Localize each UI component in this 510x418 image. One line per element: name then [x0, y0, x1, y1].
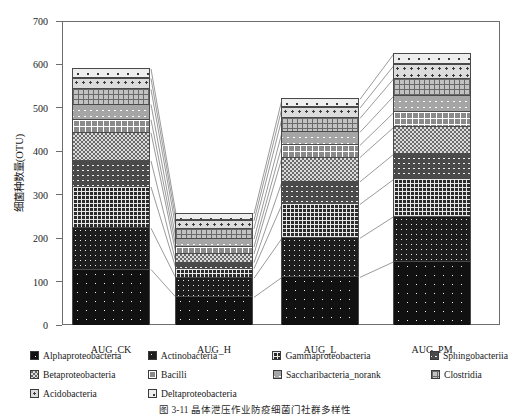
segment-connector-line — [254, 182, 282, 263]
bar-stack — [175, 213, 253, 325]
bar-segment-sphingobacteriia[interactable] — [393, 153, 471, 178]
bar-segment-acidobacteria[interactable] — [72, 78, 150, 89]
bar-segment-betaproteobacteria[interactable] — [393, 126, 471, 153]
bar-column-aug_h[interactable] — [175, 21, 253, 325]
y-axis-tick-label: 200 — [33, 233, 48, 244]
bar-segment-sphingobacteriia[interactable] — [281, 181, 359, 204]
bar-segment-alphaproteobacteria[interactable] — [393, 261, 471, 325]
legend-item-clostridia[interactable]: Clostridia — [431, 369, 482, 380]
legend-item-actinobacteria[interactable]: Actinobacteria — [148, 350, 273, 361]
legend-item-bacilli[interactable]: Bacilli — [148, 369, 273, 380]
bar-segment-saccharibacteria-norank[interactable] — [175, 238, 253, 246]
bar-segment-deltaproteobacteria[interactable] — [393, 53, 471, 65]
bar-segment-actinobacteria[interactable] — [175, 277, 253, 296]
bar-segment-saccharibacteria-norank[interactable] — [393, 95, 471, 112]
legend-label: Alphaproteobacteria — [43, 350, 121, 361]
y-axis-tick-label: 0 — [43, 320, 48, 331]
y-axis-title: 细菌种数量(OTU) — [11, 134, 26, 213]
segment-connector-line — [151, 133, 176, 254]
legend-swatch-icon — [431, 370, 440, 379]
legend-item-saccharibacteria-norank[interactable]: Saccharibacteria_norank — [273, 369, 431, 380]
legend-item-acidobacteria[interactable]: Acidobacteria — [30, 388, 148, 399]
legend-label: Deltaproteobacteria — [161, 388, 237, 399]
bar-stack — [393, 53, 471, 325]
segment-connector-line — [151, 161, 176, 263]
legend-label: Acidobacteria — [43, 388, 97, 399]
bar-column-aug_pm[interactable] — [393, 21, 471, 325]
segment-connector-line — [360, 154, 394, 182]
bar-segment-alphaproteobacteria[interactable] — [281, 276, 359, 325]
bar-segment-betaproteobacteria[interactable] — [175, 253, 253, 262]
segment-connector-line — [254, 204, 282, 268]
bar-segment-bacilli[interactable] — [175, 246, 253, 253]
segment-connector-line — [254, 238, 282, 278]
legend-label: Saccharibacteria_norank — [286, 369, 381, 380]
bar-segment-clostridia[interactable] — [72, 88, 150, 103]
bar-segment-acidobacteria[interactable] — [281, 107, 359, 117]
legend-item-gammaproteobacteria[interactable]: Gammaproteobacteria — [272, 350, 430, 361]
legend-label: Bacilli — [161, 369, 187, 380]
segment-connector-line — [151, 187, 176, 269]
legend-label: Clostridia — [444, 369, 482, 380]
segment-connector-line — [360, 65, 394, 108]
bar-segment-actinobacteria[interactable] — [72, 227, 150, 268]
bar-segment-gammaproteobacteria[interactable] — [281, 203, 359, 237]
bar-column-aug_l[interactable] — [281, 21, 359, 325]
bar-segment-actinobacteria[interactable] — [393, 216, 471, 261]
segment-connector-line — [151, 78, 176, 220]
y-axis-tick-label: 500 — [33, 102, 48, 113]
segment-connector-line — [151, 89, 176, 228]
bar-segment-betaproteobacteria[interactable] — [281, 157, 359, 181]
bar-segment-clostridia[interactable] — [281, 117, 359, 131]
y-axis-tick-label: 700 — [33, 16, 48, 27]
bar-segment-acidobacteria[interactable] — [393, 64, 471, 77]
legend-row: BetaproteobacteriaBacilliSaccharibacteri… — [30, 365, 508, 384]
chart-legend: AlphaproteobacteriaActinobacteriaGammapr… — [30, 346, 508, 403]
figure-caption: 图 3-11 晶体泄压作业防疫细菌门社群多样性 — [0, 402, 510, 418]
legend-item-sphingobacteriia[interactable]: Sphingobacteriia — [430, 350, 508, 361]
y-axis-tick-label: 600 — [33, 59, 48, 70]
legend-swatch-icon — [272, 351, 281, 360]
segment-connector-line — [254, 108, 282, 221]
segment-connector-line — [151, 228, 176, 278]
chart-area: 细菌种数量(OTU) 0100200300400500600700 AUG_CK… — [0, 0, 510, 340]
legend-item-betaproteobacteria[interactable]: Betaproteobacteria — [30, 369, 148, 380]
bar-segment-saccharibacteria-norank[interactable] — [281, 131, 359, 144]
segment-connector-line — [360, 96, 394, 132]
bar-segment-deltaproteobacteria[interactable] — [281, 98, 359, 107]
legend-swatch-icon — [30, 389, 39, 398]
bar-segment-saccharibacteria-norank[interactable] — [72, 104, 150, 119]
segment-connector-line — [360, 78, 394, 118]
bar-column-aug_ck[interactable] — [72, 21, 150, 325]
legend-item-deltaproteobacteria[interactable]: Deltaproteobacteria — [148, 388, 273, 399]
segment-connector-line — [254, 132, 282, 239]
bar-segment-deltaproteobacteria[interactable] — [72, 68, 150, 78]
segment-connector-line — [360, 54, 394, 100]
legend-item-alphaproteobacteria[interactable]: Alphaproteobacteria — [30, 350, 148, 361]
segment-connector-line — [360, 262, 394, 278]
bar-segment-betaproteobacteria[interactable] — [72, 132, 150, 160]
legend-label: Gammaproteobacteria — [285, 350, 370, 361]
legend-swatch-icon — [430, 351, 439, 360]
segment-connector-line — [254, 99, 282, 214]
bar-segment-alphaproteobacteria[interactable] — [72, 269, 150, 325]
bar-segment-actinobacteria[interactable] — [281, 237, 359, 276]
segment-connector-line — [151, 105, 176, 240]
y-axis-tick-label: 100 — [33, 276, 48, 287]
bar-stack — [281, 98, 359, 325]
legend-row: AlphaproteobacteriaActinobacteriaGammapr… — [30, 346, 508, 365]
legend-swatch-icon — [30, 370, 39, 379]
bar-segment-gammaproteobacteria[interactable] — [393, 178, 471, 215]
bar-segment-bacilli[interactable] — [281, 144, 359, 156]
bar-segment-alphaproteobacteria[interactable] — [175, 296, 253, 325]
bar-segment-deltaproteobacteria[interactable] — [175, 213, 253, 220]
bar-segment-clostridia[interactable] — [393, 78, 471, 95]
legend-label: Betaproteobacteria — [43, 369, 115, 380]
bar-segment-gammaproteobacteria[interactable] — [175, 268, 253, 278]
bar-segment-sphingobacteriia[interactable] — [72, 160, 150, 186]
bar-segment-bacilli[interactable] — [393, 111, 471, 126]
bar-segment-gammaproteobacteria[interactable] — [72, 186, 150, 227]
bar-segment-bacilli[interactable] — [72, 119, 150, 132]
bar-segment-acidobacteria[interactable] — [175, 220, 253, 228]
bar-segment-clostridia[interactable] — [175, 228, 253, 238]
